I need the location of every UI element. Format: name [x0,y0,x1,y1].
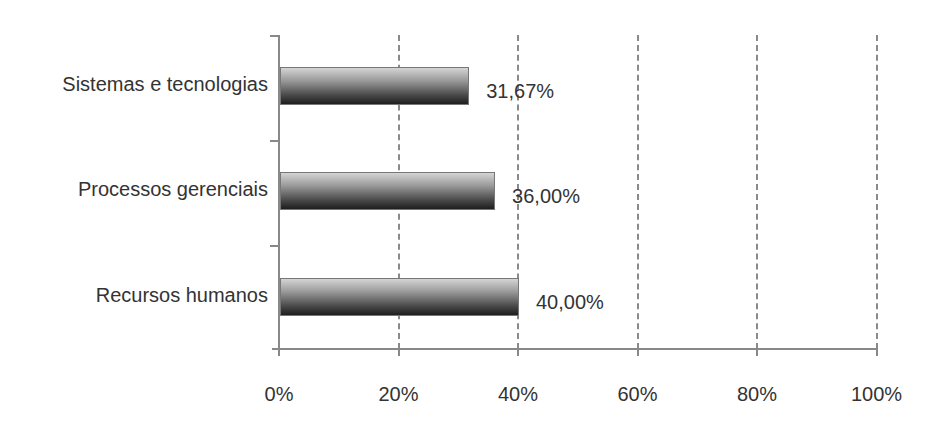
x-axis [272,348,878,350]
x-tick [637,348,639,356]
x-tick [278,348,280,356]
x-tick-label: 40% [498,383,538,406]
y-tick [270,245,279,247]
gridline [756,35,758,349]
x-tick-label: 20% [378,383,418,406]
x-tick [876,348,878,356]
gridline [637,35,639,349]
bar [280,67,469,105]
bar [280,278,519,316]
value-label: 31,67% [486,80,554,103]
gridline [876,35,878,349]
category-label: Sistemas e tecnologias [62,73,268,96]
value-label: 40,00% [536,291,604,314]
x-tick-label: 100% [851,383,902,406]
x-tick-label: 0% [265,383,294,406]
value-label: 36,00% [512,185,580,208]
bar [280,172,495,210]
x-tick [517,348,519,356]
category-label: Recursos humanos [96,284,268,307]
x-tick [756,348,758,356]
category-label: Processos gerenciais [78,178,268,201]
y-tick [270,140,279,142]
y-tick [270,35,279,37]
x-tick-label: 60% [617,383,657,406]
x-tick [398,348,400,356]
x-tick-label: 80% [737,383,777,406]
